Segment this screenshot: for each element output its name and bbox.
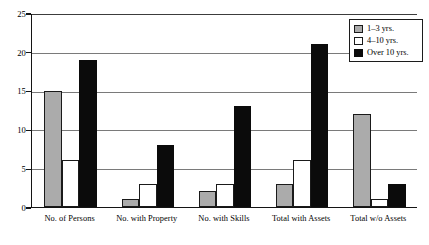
y-tick-label-5: 5 <box>4 165 26 174</box>
bar <box>199 191 217 207</box>
legend-swatch-icon <box>354 25 363 33</box>
x-tick-label: Total with Assets <box>263 213 340 224</box>
legend-item[interactable]: 4–10 yrs. <box>354 35 419 46</box>
bar-group <box>199 14 252 207</box>
x-axis-labels: No. of PersonsNo. with PropertyNo. with … <box>31 213 417 231</box>
chart-legend: 1–3 yrs.4–10 yrs.Over 10 yrs. <box>349 19 423 62</box>
x-tick-label: No. with Skills <box>185 213 262 224</box>
legend-swatch-icon <box>354 49 363 57</box>
bar <box>234 106 252 207</box>
bar-chart: 0510152025 No. of PersonsNo. with Proper… <box>0 0 429 245</box>
bar <box>371 199 389 207</box>
bar <box>79 60 97 207</box>
legend-item-label: 1–3 yrs. <box>367 24 394 33</box>
x-tick-label: Total w/o Assets <box>340 213 417 224</box>
legend-item-label: 4–10 yrs. <box>367 36 398 45</box>
bar <box>157 145 175 207</box>
y-axis-labels: 0510152025 <box>0 0 26 245</box>
x-tick-label: No. with Property <box>108 213 185 224</box>
bar <box>276 184 294 207</box>
legend-swatch-icon <box>354 37 363 45</box>
bar-group <box>122 14 175 207</box>
x-tick-label: No. of Persons <box>31 213 108 224</box>
y-tick-label-15: 15 <box>4 87 26 96</box>
bar <box>388 184 406 207</box>
bar <box>44 91 62 207</box>
bar-group <box>44 14 97 207</box>
bar <box>353 114 371 207</box>
bar-group <box>276 14 329 207</box>
legend-item[interactable]: 1–3 yrs. <box>354 23 419 34</box>
bar <box>122 199 140 207</box>
y-tick-label-10: 10 <box>4 126 26 135</box>
bar <box>62 160 80 207</box>
bar <box>311 44 329 207</box>
legend-item-label: Over 10 yrs. <box>367 48 409 57</box>
y-tick-label-25: 25 <box>4 10 26 19</box>
y-tick-label-20: 20 <box>4 49 26 58</box>
bar <box>216 184 234 207</box>
bar <box>139 184 157 207</box>
y-tick-label-0: 0 <box>4 204 26 213</box>
bar <box>293 160 311 207</box>
legend-item[interactable]: Over 10 yrs. <box>354 47 419 58</box>
